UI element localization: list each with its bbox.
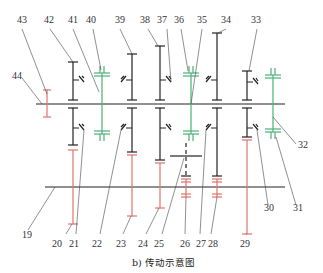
label-23: 23: [116, 238, 126, 249]
leader-lines: [22, 29, 296, 234]
gear-28: [212, 179, 222, 197]
label-26: 26: [180, 238, 190, 249]
label-44: 44: [12, 70, 22, 81]
gear-26: [181, 179, 191, 197]
label-43: 43: [17, 14, 27, 25]
label-41: 41: [68, 14, 78, 25]
label-37: 37: [157, 14, 167, 25]
label-31: 31: [293, 202, 303, 213]
gear-38: [155, 46, 171, 160]
label-35: 35: [197, 14, 207, 25]
label-36: 36: [174, 14, 184, 25]
label-28: 28: [208, 238, 218, 249]
gear-39: [121, 54, 137, 152]
label-29: 29: [240, 238, 250, 249]
label-22: 22: [92, 238, 102, 249]
label-33: 33: [251, 14, 261, 25]
label-34: 34: [221, 14, 231, 25]
label-40: 40: [86, 14, 96, 25]
label-21: 21: [69, 238, 79, 249]
label-32: 32: [298, 139, 308, 150]
label-19: 19: [22, 229, 32, 240]
transmission-schematic: 43 42 41 40 39 38 37 36 35 34 33 44 19 3…: [0, 0, 323, 273]
gear-23: [127, 155, 137, 216]
label-25: 25: [154, 238, 164, 249]
reverse-idler-25: [170, 143, 202, 176]
label-20: 20: [52, 238, 62, 249]
label-38: 38: [140, 14, 150, 25]
label-24: 24: [138, 238, 148, 249]
gear-24: [155, 163, 165, 208]
label-30: 30: [264, 202, 274, 213]
diagram-caption: b) 传动示意图: [132, 257, 195, 268]
label-27: 27: [196, 238, 206, 249]
label-42: 42: [44, 14, 54, 25]
label-39: 39: [115, 14, 125, 25]
